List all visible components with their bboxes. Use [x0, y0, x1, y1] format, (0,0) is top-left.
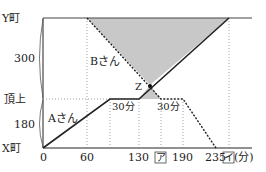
distance-time-diagram: Y町 頂上 X町 300 180 0 60 130 ア 190 235 イ (分… — [0, 0, 266, 172]
brace-upper — [40, 19, 44, 98]
x-unit: (分) — [234, 151, 254, 164]
y-label-summit: 頂上 — [4, 93, 26, 106]
x-tick-0: 0 — [40, 151, 47, 164]
x-tick-60: 60 — [80, 151, 94, 164]
y-label-y-town: Y町 — [1, 12, 20, 25]
x-tick-i: イ — [224, 152, 234, 163]
a-san-label: Aさん — [47, 112, 78, 125]
rest-label-b: 30分 — [157, 101, 180, 112]
segment-300: 300 — [14, 52, 35, 65]
brace-lower — [40, 100, 44, 147]
y-label-x-town: X町 — [2, 142, 21, 155]
x-tick-a: ア — [156, 152, 166, 163]
x-tick-130: 130 — [128, 151, 149, 164]
z-point — [148, 84, 152, 88]
x-tick-190: 190 — [172, 151, 193, 164]
rest-label-a: 30分 — [112, 101, 135, 112]
z-label: Z — [135, 81, 142, 92]
shaded-region-upper — [87, 18, 229, 85]
segment-180: 180 — [14, 118, 35, 131]
b-san-label: Bさん — [90, 55, 120, 68]
